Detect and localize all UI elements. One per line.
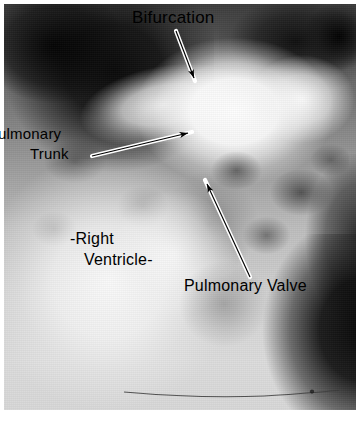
annotation-arrows <box>0 0 363 421</box>
label-bifurcation: Bifurcation <box>132 8 215 28</box>
label-pulmonary-trunk: ulmonary Trunk <box>0 124 69 164</box>
bifurcation-arrow <box>176 31 195 81</box>
label-pulmonary-trunk-line2: Trunk <box>0 144 69 164</box>
label-pulmonary-valve-line1: Pulmonary Valve <box>184 277 307 294</box>
annotation-layer: Bifurcation ulmonary Trunk -Right Ventri… <box>0 0 363 421</box>
pulmonary-trunk-arrow <box>92 132 192 156</box>
radiograph-figure: Bifurcation ulmonary Trunk -Right Ventri… <box>0 0 363 421</box>
label-right-ventricle: -Right Ventricle- <box>70 228 153 270</box>
label-pulmonary-trunk-line1: ulmonary <box>0 125 61 142</box>
pulmonary-valve-arrow <box>205 180 250 277</box>
label-right-ventricle-line1: -Right <box>70 230 114 247</box>
label-right-ventricle-line2: Ventricle- <box>70 249 153 270</box>
label-bifurcation-line1: Bifurcation <box>132 8 215 27</box>
label-pulmonary-valve: Pulmonary Valve <box>184 277 307 295</box>
